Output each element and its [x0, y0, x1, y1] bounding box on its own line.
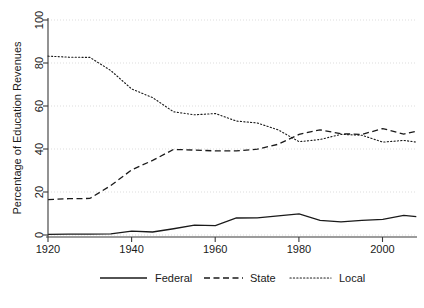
y-tick-label-20: 20	[33, 186, 45, 198]
x-tick-label-1940: 1940	[119, 243, 143, 255]
line-chart-svg: 100 80 60 40 20 0 Percentage of Educatio…	[0, 0, 424, 308]
x-tick-label-1920: 1920	[36, 243, 60, 255]
y-tick-label-100: 100	[33, 11, 45, 29]
chart-figure: 100 80 60 40 20 0 Percentage of Educatio…	[0, 0, 424, 308]
y-axis-title: Percentage of Education Revenues	[11, 41, 23, 215]
y-tick-label-60: 60	[33, 100, 45, 112]
y-tick-label-80: 80	[33, 57, 45, 69]
legend-label-local: Local	[339, 272, 365, 284]
legend-label-state: State	[250, 272, 276, 284]
x-tick-label-2000: 2000	[370, 243, 394, 255]
y-tick-label-0: 0	[33, 232, 45, 238]
x-tick-label-1960: 1960	[203, 243, 227, 255]
chart-background	[0, 0, 424, 308]
x-tick-label-1980: 1980	[287, 243, 311, 255]
legend-label-federal: Federal	[155, 272, 192, 284]
y-tick-label-40: 40	[33, 143, 45, 155]
